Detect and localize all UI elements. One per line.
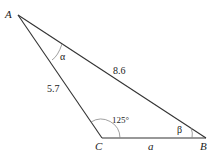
side-label-ac: 5.7	[47, 83, 60, 94]
triangle-diagram: A C B 8.6 5.7 a α 125° β	[0, 0, 210, 158]
side-ac	[18, 15, 102, 138]
vertex-label-c: C	[95, 140, 103, 152]
vertex-label-a: A	[4, 8, 12, 20]
side-label-ab: 8.6	[113, 65, 126, 76]
side-label-cb: a	[148, 140, 154, 152]
vertex-label-b: B	[200, 140, 207, 152]
angle-label-c: 125°	[112, 115, 130, 125]
angle-label-b: β	[177, 124, 182, 135]
angle-label-a: α	[60, 51, 66, 62]
